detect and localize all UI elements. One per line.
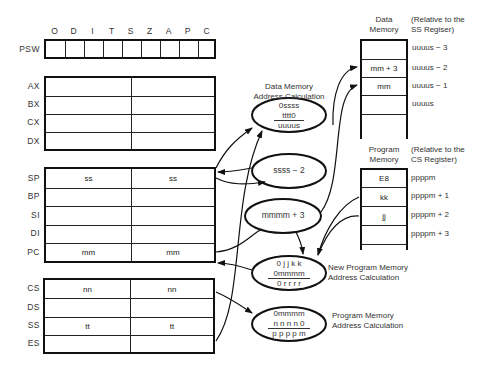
connector-layer <box>0 0 496 375</box>
new-prog-addr-label: New Program Memory Address Calculation <box>328 263 408 283</box>
return-addr-text: mmmm + 3 <box>245 210 321 220</box>
prog-addr-label: Program Memory Address Calculation <box>332 311 403 331</box>
prog-addr-calc: 0mmmm n n n n 0 p p p p m <box>262 309 316 339</box>
data-addr-title: Data Memory Address Calculation <box>242 82 336 101</box>
data-addr-calc: 0ssss tttt0 uuuus <box>266 101 312 131</box>
new-prog-addr-calc: 0 j j k k 0mmmm 0 r r r r <box>262 259 316 289</box>
stack-decrement-text: ssss − 2 <box>252 165 326 175</box>
